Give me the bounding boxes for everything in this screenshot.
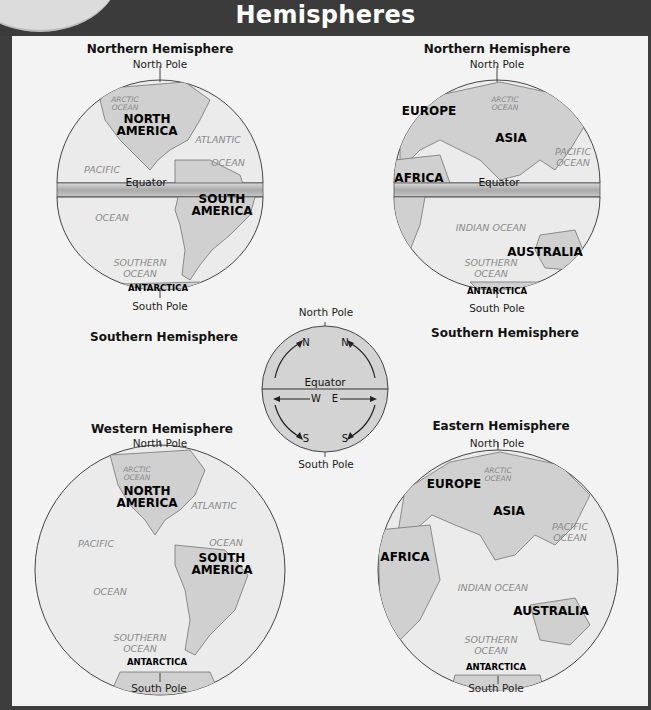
northern-hemisphere-title-2: Northern Hemisphere xyxy=(424,42,571,56)
arctic-ocean-label-2: ARCTICOCEAN xyxy=(491,96,519,112)
western-hemisphere-title: Western Hemisphere xyxy=(91,422,233,436)
south-pole-label-4: South Pole xyxy=(468,682,524,694)
north-pole-label-2: North Pole xyxy=(470,58,524,70)
africa-label: AFRICA xyxy=(394,172,443,184)
atlantic-label: ATLANTIC xyxy=(195,134,241,145)
australia-label: AUSTRALIA xyxy=(507,246,582,258)
equator-label-2: Equator xyxy=(478,176,519,188)
diagram-e-label: E xyxy=(332,393,338,404)
ocean-label-2: OCEAN xyxy=(95,212,129,223)
europe-label: EUROPE xyxy=(402,105,456,117)
southern-hemisphere-title: Southern Hemisphere xyxy=(90,330,238,344)
pacific-label-3: PACIFIC xyxy=(78,538,114,549)
arctic-ocean-label-4: ARCTICOCEAN xyxy=(484,467,512,483)
south-pole-label: South Pole xyxy=(132,300,188,312)
diagram-w-label: W xyxy=(311,393,321,404)
diagram-n-right: N xyxy=(341,337,348,348)
northern-hemisphere-title: Northern Hemisphere xyxy=(87,42,234,56)
diagram-south-pole-label: South Pole xyxy=(298,458,354,470)
southern-hemisphere-title-2: Southern Hemisphere xyxy=(431,326,579,340)
southern-ocean-label-2: SOUTHERNOCEAN xyxy=(464,257,517,279)
pacific-ocean-label-2: PACIFICOCEAN xyxy=(555,146,591,168)
southern-ocean-label: SOUTHERNOCEAN xyxy=(113,257,166,279)
indian-ocean-label: INDIAN OCEAN xyxy=(456,222,526,233)
north-pole-label-3: North Pole xyxy=(133,437,187,449)
diagram-s-left: S xyxy=(303,433,309,444)
pacific-ocean-label-4: PACIFICOCEAN xyxy=(552,521,588,543)
north-pole-label: North Pole xyxy=(133,58,187,70)
ocean-label-3: OCEAN xyxy=(209,537,243,548)
australia-label-4: AUSTRALIA xyxy=(513,605,588,617)
asia-label: ASIA xyxy=(495,132,527,144)
north-pole-label-4: North Pole xyxy=(470,437,524,449)
antarctica-label-4: ANTARCTICA xyxy=(466,661,526,673)
europe-label-4: EUROPE xyxy=(427,478,481,490)
north-america-label: NORTHAMERICA xyxy=(116,113,177,137)
south-pole-label-2: South Pole xyxy=(469,302,525,314)
arctic-ocean-label: ARCTICOCEAN xyxy=(111,96,139,112)
eastern-hemisphere-title: Eastern Hemisphere xyxy=(432,419,569,433)
equator-label: Equator xyxy=(125,176,166,188)
southern-ocean-label-3: SOUTHERNOCEAN xyxy=(113,632,166,654)
diagram-equator-label: Equator xyxy=(304,376,345,388)
south-america-label: SOUTHAMERICA xyxy=(191,193,252,217)
diagram-n-left: N xyxy=(302,337,309,348)
ocean-label-3b: OCEAN xyxy=(93,586,127,597)
arctic-ocean-label-3: ARCTICOCEAN xyxy=(123,466,151,482)
pacific-label: PACIFIC xyxy=(84,164,120,175)
indian-ocean-label-4: INDIAN OCEAN xyxy=(458,582,528,593)
ocean-label: OCEAN xyxy=(211,157,245,168)
antarctica-label-2: ANTARCTICA xyxy=(467,285,527,297)
diagram-s-right: S xyxy=(342,433,348,444)
diagram-north-pole-label: North Pole xyxy=(299,306,353,318)
asia-label-4: ASIA xyxy=(493,505,525,517)
south-america-label-3: SOUTHAMERICA xyxy=(191,552,252,576)
atlantic-label-3: ATLANTIC xyxy=(191,500,237,511)
antarctica-label: ANTARCTICA xyxy=(128,282,188,294)
direction-diagram xyxy=(262,322,388,457)
southern-ocean-label-4: SOUTHERNOCEAN xyxy=(464,634,517,656)
north-america-label-3: NORTHAMERICA xyxy=(116,485,177,509)
antarctica-label-3: ANTARCTICA xyxy=(127,656,187,668)
south-pole-label-3: South Pole xyxy=(131,682,187,694)
africa-label-4: AFRICA xyxy=(380,551,429,563)
